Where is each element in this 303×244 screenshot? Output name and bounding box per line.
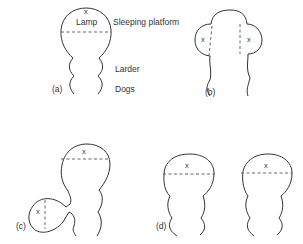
plan-b-outline (195, 10, 262, 96)
sleeping-platform-label: Sleeping platform (113, 18, 179, 27)
plan-d-left-x-mark: x (185, 162, 189, 170)
plan-b-left-x-mark: x (201, 36, 205, 44)
snow-house-plans-diagram (0, 0, 303, 244)
plan-c-side-x-mark: x (36, 208, 40, 216)
plan-b-right-x-mark: x (247, 36, 251, 44)
plan-d-right-x-mark: x (264, 162, 268, 170)
panel-c-label: (c) (16, 222, 26, 231)
plan-c-top-x-mark: x (82, 148, 86, 156)
larder-label: Larder (115, 65, 140, 74)
panel-d-label: (d) (156, 222, 166, 231)
plan-a-x-mark: x (84, 8, 88, 16)
plan-c-outline (29, 144, 110, 236)
panel-b-label: (b) (205, 88, 215, 97)
dogs-label: Dogs (115, 85, 135, 94)
panel-a-label: (a) (52, 85, 62, 94)
lamp-label: Lamp (76, 18, 97, 27)
plan-d-left-outline (163, 154, 215, 236)
